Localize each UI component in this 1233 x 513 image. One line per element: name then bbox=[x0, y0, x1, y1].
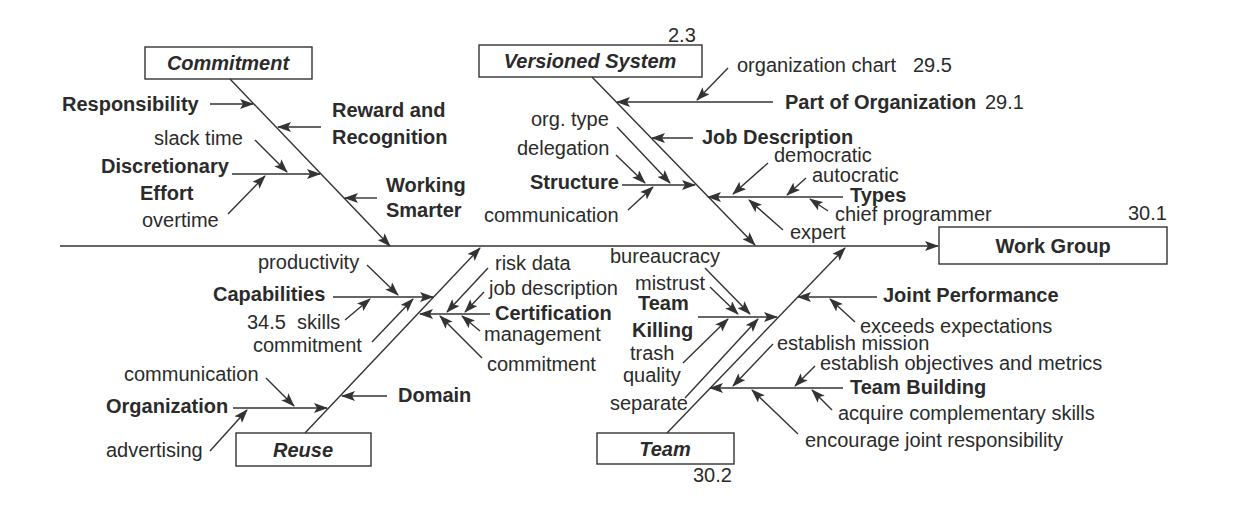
sub-acquire-skills: acquire complementary skills bbox=[838, 402, 1095, 424]
cause-team-killing-line1: Team bbox=[638, 292, 689, 314]
cause-part-of-organization: Part of Organization bbox=[785, 91, 976, 113]
sub-productivity: productivity bbox=[258, 251, 359, 273]
versioned-system-ref: 2.3 bbox=[668, 24, 696, 46]
cause-working-line2: Smarter bbox=[386, 199, 462, 221]
cause-part-of-organization-ref: 29.1 bbox=[985, 91, 1024, 113]
sub-job-description: job description bbox=[488, 277, 618, 299]
category-commitment: Commitment Responsibility Reward and Rec… bbox=[62, 47, 466, 246]
communication-arrow bbox=[628, 187, 653, 210]
separate-arrow bbox=[685, 319, 758, 398]
cause-joint-performance: Joint Performance bbox=[883, 284, 1059, 306]
sub-organization-chart: organization chart bbox=[737, 54, 896, 76]
sub-skills-ref: 34.5 bbox=[247, 311, 286, 333]
category-versioned-system: Versioned System 2.3 organization chart … bbox=[479, 24, 1024, 245]
expert-arrow bbox=[749, 200, 783, 230]
sub-risk-data: risk data bbox=[495, 252, 571, 274]
sub-bureaucracy: bureaucracy bbox=[610, 245, 720, 267]
cause-discretionary-line2: Effort bbox=[140, 182, 194, 204]
cause-team-building: Team Building bbox=[850, 376, 986, 398]
cause-discretionary-line1: Discretionary bbox=[101, 155, 230, 177]
cause-reward-line2: Recognition bbox=[332, 126, 448, 148]
risk-data-arrow bbox=[447, 268, 488, 312]
effect-label: Work Group bbox=[995, 235, 1110, 257]
sub-trash: trash bbox=[630, 342, 674, 364]
establish-mission-arrow bbox=[733, 344, 773, 386]
sub-org-type: org. type bbox=[531, 108, 609, 130]
exceeds-expectations-arrow bbox=[830, 299, 855, 322]
team-label: Team bbox=[639, 438, 691, 460]
sub-communication: communication bbox=[484, 204, 619, 226]
sub-establish-mission: establish mission bbox=[777, 332, 929, 354]
effect-ref: 30.1 bbox=[1128, 202, 1167, 224]
sub-separate: separate bbox=[610, 392, 688, 414]
productivity-arrow bbox=[367, 265, 398, 295]
sub-commitment-cert: commitment bbox=[487, 353, 596, 375]
commitment-sub-arrow bbox=[372, 299, 413, 342]
sub-communication-org: communication bbox=[124, 363, 259, 385]
sub-organization-chart-ref: 29.5 bbox=[913, 54, 952, 76]
versioned-system-label: Versioned System bbox=[504, 50, 677, 72]
org-type-arrow bbox=[617, 127, 670, 183]
sub-advertising: advertising bbox=[106, 439, 203, 461]
sub-expert: expert bbox=[790, 221, 846, 243]
cause-domain: Domain bbox=[398, 384, 471, 406]
sub-mistrust: mistrust bbox=[635, 272, 705, 294]
cause-working-line1: Working bbox=[386, 174, 466, 196]
cause-team-killing-line2: Killing bbox=[632, 319, 693, 341]
delegation-arrow bbox=[616, 155, 645, 183]
category-team: Team 30.2 bureaucracy mistrust Team Kill… bbox=[597, 245, 1102, 486]
cause-organization: Organization bbox=[106, 395, 228, 417]
slack-time-arrow bbox=[255, 140, 287, 172]
sub-skills: skills bbox=[297, 311, 340, 333]
overtime-arrow bbox=[228, 176, 265, 214]
commitment-label: Commitment bbox=[167, 52, 291, 74]
sub-encourage-responsibility: encourage joint responsibility bbox=[805, 429, 1063, 451]
autocratic-arrow bbox=[787, 178, 806, 195]
category-reuse: Reuse productivity Capabilities 34.5 ski… bbox=[106, 248, 618, 466]
cause-certification: Certification bbox=[495, 302, 612, 324]
cause-capabilities: Capabilities bbox=[213, 283, 325, 305]
sub-commitment: commitment bbox=[253, 334, 362, 356]
cause-responsibility: Responsibility bbox=[62, 93, 200, 115]
sub-quality: quality bbox=[623, 364, 681, 386]
democratic-arrow bbox=[733, 163, 768, 194]
job-description-sub-arrow bbox=[465, 292, 484, 312]
sub-slack-time: slack time bbox=[154, 127, 243, 149]
communication-org-arrow bbox=[266, 378, 294, 406]
sub-overtime: overtime bbox=[142, 209, 219, 231]
acquire-skills-arrow bbox=[812, 390, 832, 410]
cause-reward-line1: Reward and bbox=[332, 99, 445, 121]
sub-delegation: delegation bbox=[517, 137, 609, 159]
mistrust-arrow bbox=[710, 287, 738, 314]
sub-democratic: democratic bbox=[774, 144, 872, 166]
bureaucracy-arrow bbox=[705, 268, 750, 314]
fishbone-diagram: Work Group 30.1 Commitment Responsibilit… bbox=[0, 0, 1233, 513]
sub-management: management bbox=[484, 323, 601, 345]
effect-box: Work Group bbox=[939, 227, 1167, 264]
reuse-label: Reuse bbox=[273, 439, 333, 461]
cause-structure: Structure bbox=[530, 171, 619, 193]
commitment-cert-arrow bbox=[440, 316, 482, 358]
skills-arrow bbox=[345, 299, 370, 320]
encourage-responsibility-arrow bbox=[752, 390, 798, 434]
chief-programmer-arrow bbox=[810, 199, 828, 211]
management-arrow bbox=[462, 316, 480, 331]
establish-objectives-arrow bbox=[795, 366, 815, 386]
sub-establish-objectives: establish objectives and metrics bbox=[820, 352, 1102, 374]
team-ref: 30.2 bbox=[693, 464, 732, 486]
sub-chief-programmer: chief programmer bbox=[835, 203, 992, 225]
sub-autocratic: autocratic bbox=[812, 164, 899, 186]
